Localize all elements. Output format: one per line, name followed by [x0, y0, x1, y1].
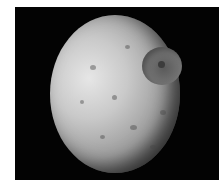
small-crater: [112, 95, 117, 100]
small-crater: [150, 145, 156, 149]
small-crater: [160, 110, 166, 115]
moon: [50, 15, 180, 173]
small-crater: [90, 65, 96, 70]
central-peak: [158, 61, 165, 68]
small-crater: [80, 100, 84, 104]
small-crater: [130, 125, 137, 130]
small-crater: [125, 45, 130, 49]
photo-frame: Cratered moon (Mimas) on black backgroun…: [15, 7, 219, 180]
small-crater: [100, 135, 105, 139]
